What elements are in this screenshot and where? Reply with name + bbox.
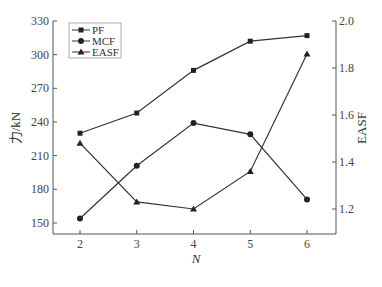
legend-label: EASF xyxy=(92,46,119,58)
y-tick-label: 240 xyxy=(31,115,49,129)
x-axis-label: N xyxy=(191,251,202,266)
y-tick-label: 300 xyxy=(31,48,49,62)
y2-tick-label: 1.8 xyxy=(339,61,354,75)
y-tick-label: 150 xyxy=(31,216,49,230)
y2-tick-label: 1.2 xyxy=(339,202,354,216)
x-ticks: 23456 xyxy=(77,230,310,251)
y2-tick-label: 1.4 xyxy=(339,155,354,169)
y-axis-label: 力/kN xyxy=(8,111,23,144)
series-easf xyxy=(77,50,311,211)
x-tick-label: 2 xyxy=(77,237,83,251)
x-tick-label: 6 xyxy=(304,237,310,251)
y2-tick-label: 2.0 xyxy=(339,14,354,28)
x-tick-label: 5 xyxy=(247,237,253,251)
y2-tick-label: 1.6 xyxy=(339,108,354,122)
line-chart: 150180210240270300330 1.21.41.61.82.0 23… xyxy=(0,0,382,287)
x-tick-label: 3 xyxy=(134,237,140,251)
y-tick-label: 180 xyxy=(31,182,49,196)
legend: PFMCFEASF xyxy=(69,23,121,58)
y-tick-label: 210 xyxy=(31,149,49,163)
y2-axis-label: EASF xyxy=(354,112,369,144)
x-tick-label: 4 xyxy=(191,237,197,251)
y-tick-label: 330 xyxy=(31,14,49,28)
series-lines xyxy=(77,33,311,221)
right-y-ticks: 1.21.41.61.82.0 xyxy=(332,14,354,216)
y-tick-label: 270 xyxy=(31,81,49,95)
